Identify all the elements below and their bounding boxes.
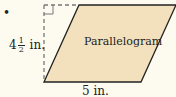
shape-label: Parallelogram — [84, 35, 162, 48]
height-label: 412 in. — [9, 37, 45, 54]
right-angle-marker — [44, 5, 53, 14]
height-fraction: 12 — [18, 37, 25, 54]
fraction-denominator: 2 — [18, 46, 25, 54]
height-whole: 4 — [9, 38, 17, 52]
height-unit: in. — [30, 38, 45, 52]
base-label: 5 in. — [82, 84, 109, 97]
